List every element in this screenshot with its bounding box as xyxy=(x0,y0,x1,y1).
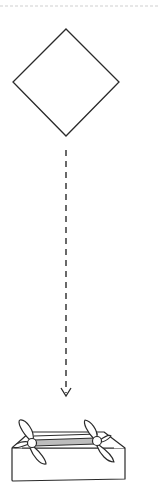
diagram-canvas xyxy=(0,0,159,487)
pinwheel-right-hub xyxy=(93,437,102,446)
diamond-shape xyxy=(13,29,119,136)
box-inner-band xyxy=(34,438,96,446)
pinwheel-left-hub xyxy=(28,439,37,448)
box-with-pinwheels xyxy=(12,420,125,481)
